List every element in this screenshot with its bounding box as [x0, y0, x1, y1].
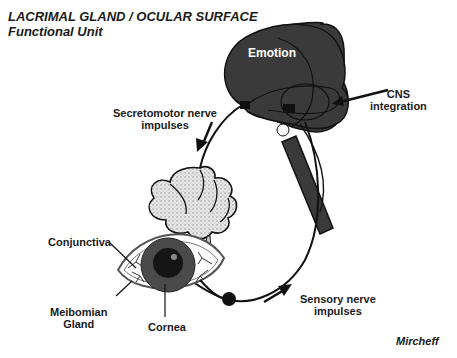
sensory-arrowhead	[278, 284, 292, 296]
cns-label-line-1: CNS	[370, 88, 427, 100]
secretomotor-label-line-1: Secretomotor nerve	[113, 107, 217, 119]
conjunctiva-label: Conjunctiva	[48, 236, 111, 248]
cns-label-line-2: integration	[370, 100, 427, 112]
pituitary	[277, 124, 289, 136]
title-line-1: LACRIMAL GLAND / OCULAR SURFACE	[8, 9, 258, 24]
lacrimal-gland	[149, 167, 236, 239]
sensory-label-line-2: impulses	[300, 305, 376, 317]
author-credit: Mircheff	[396, 335, 439, 347]
title-line-2: Functional Unit	[8, 24, 258, 39]
brainstem	[282, 136, 333, 234]
pupil	[153, 248, 183, 278]
cns-integration-label: CNS integration	[370, 88, 427, 112]
meibomian-leader	[116, 281, 132, 296]
secretomotor-label-line-2: impulses	[113, 119, 217, 131]
cornea-label: Cornea	[148, 321, 186, 333]
emotion-label: Emotion	[248, 47, 296, 59]
sensory-label-line-1: Sensory nerve	[300, 293, 376, 305]
sensory-ganglion	[222, 292, 236, 306]
meibomian-label-line-2: Gland	[50, 318, 107, 330]
brain-nucleus	[283, 104, 295, 113]
secretomotor-label: Secretomotor nerve impulses	[113, 107, 217, 131]
diagram-title: LACRIMAL GLAND / OCULAR SURFACE Function…	[8, 9, 258, 39]
meibomian-label-line-1: Meibomian	[50, 306, 107, 318]
diagram-canvas	[0, 0, 457, 358]
meibomian-gland-label: Meibomian Gland	[50, 306, 107, 330]
corneal-highlight	[171, 254, 177, 260]
sensory-nerve-label: Sensory nerve impulses	[300, 293, 376, 317]
